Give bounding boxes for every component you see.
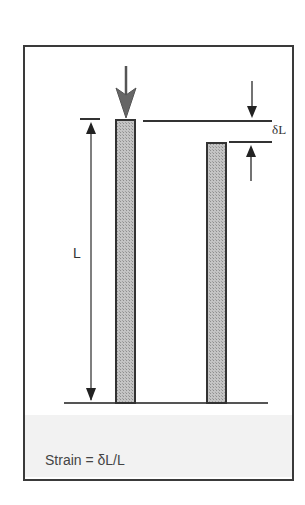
strain-diagram [0,0,305,505]
length-label: L [73,245,81,261]
length-dimension [80,119,100,401]
strain-formula: Strain = δL/L [45,452,125,468]
load-arrow-icon [116,66,136,118]
original-bar [116,120,135,403]
compressed-bar [207,143,226,403]
delta-length-label: δL [272,122,286,138]
